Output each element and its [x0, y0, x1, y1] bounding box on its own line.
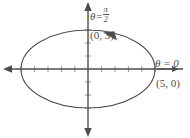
label-theta-zero: θ = 0 [155, 58, 179, 69]
equals-symbol: = [95, 10, 102, 22]
fraction-numerator: π [103, 6, 109, 15]
polar-ellipse-figure: θ=π2 (0, 3) θ = 0 (5, 0) [0, 0, 190, 138]
label-point-top: (0, 3) [90, 30, 114, 41]
label-point-right: (5, 0) [156, 78, 180, 89]
fraction-denominator: 2 [103, 15, 109, 24]
pi-over-two-fraction: π2 [103, 6, 109, 24]
label-theta-half-pi: θ=π2 [90, 7, 109, 25]
